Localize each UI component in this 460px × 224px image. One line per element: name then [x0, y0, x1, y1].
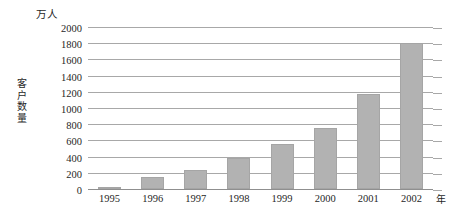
y-tick-label: 800 — [66, 120, 82, 131]
bar-chart: 万人 客 户 数 量 02004006008001000120014001600… — [0, 0, 460, 224]
bar — [357, 94, 380, 189]
y-tick-mark — [433, 125, 442, 126]
bar — [314, 128, 337, 189]
bar — [400, 43, 423, 189]
x-axis-labels: 19951996199719981999200020012002 — [88, 192, 433, 210]
y-tick-mark — [433, 174, 442, 175]
y-axis-title-char-4: 量 — [15, 113, 29, 125]
bar — [271, 144, 294, 189]
y-tick-mark — [433, 141, 442, 142]
y-tick-label: 200 — [66, 168, 82, 179]
x-tick-label: 1995 — [99, 192, 120, 205]
y-axis-unit-label: 万人 — [36, 9, 57, 21]
y-tick-mark — [433, 158, 442, 159]
y-tick-mark — [433, 28, 442, 29]
x-tick-label: 1998 — [228, 192, 249, 205]
bar — [184, 170, 207, 189]
gridline: 0 — [88, 189, 433, 190]
bar — [141, 177, 164, 189]
y-tick-label: 600 — [66, 136, 82, 147]
y-tick-mark — [433, 109, 442, 110]
y-axis-title: 客 户 数 量 — [15, 78, 29, 124]
x-tick-label: 2000 — [315, 192, 336, 205]
x-axis-unit-label: 年 — [436, 193, 446, 206]
y-tick-label: 1200 — [61, 87, 82, 98]
bar — [98, 187, 121, 189]
y-tick-mark — [433, 93, 442, 94]
x-tick-label: 1996 — [142, 192, 163, 205]
x-tick-label: 2001 — [358, 192, 379, 205]
y-tick-mark — [433, 77, 442, 78]
bar — [227, 158, 250, 189]
x-tick-label: 1999 — [272, 192, 293, 205]
y-axis-title-char-2: 户 — [15, 90, 29, 102]
y-tick-label: 1600 — [61, 55, 82, 66]
y-tick-label: 2000 — [61, 23, 82, 34]
y-tick-mark — [433, 190, 442, 191]
bars-layer — [88, 27, 433, 189]
y-tick-label: 1400 — [61, 71, 82, 82]
y-tick-label: 1000 — [61, 104, 82, 115]
y-tick-label: 1800 — [61, 39, 82, 50]
y-axis-title-char-3: 数 — [15, 101, 29, 113]
y-tick-label: 400 — [66, 152, 82, 163]
y-axis-title-char-1: 客 — [15, 78, 29, 90]
x-tick-label: 2002 — [401, 192, 422, 205]
x-tick-label: 1997 — [185, 192, 206, 205]
plot-area: 0200400600800100012001400160018002000 — [88, 27, 433, 189]
y-tick-label: 0 — [77, 185, 82, 196]
y-tick-mark — [433, 60, 442, 61]
y-tick-mark — [433, 44, 442, 45]
